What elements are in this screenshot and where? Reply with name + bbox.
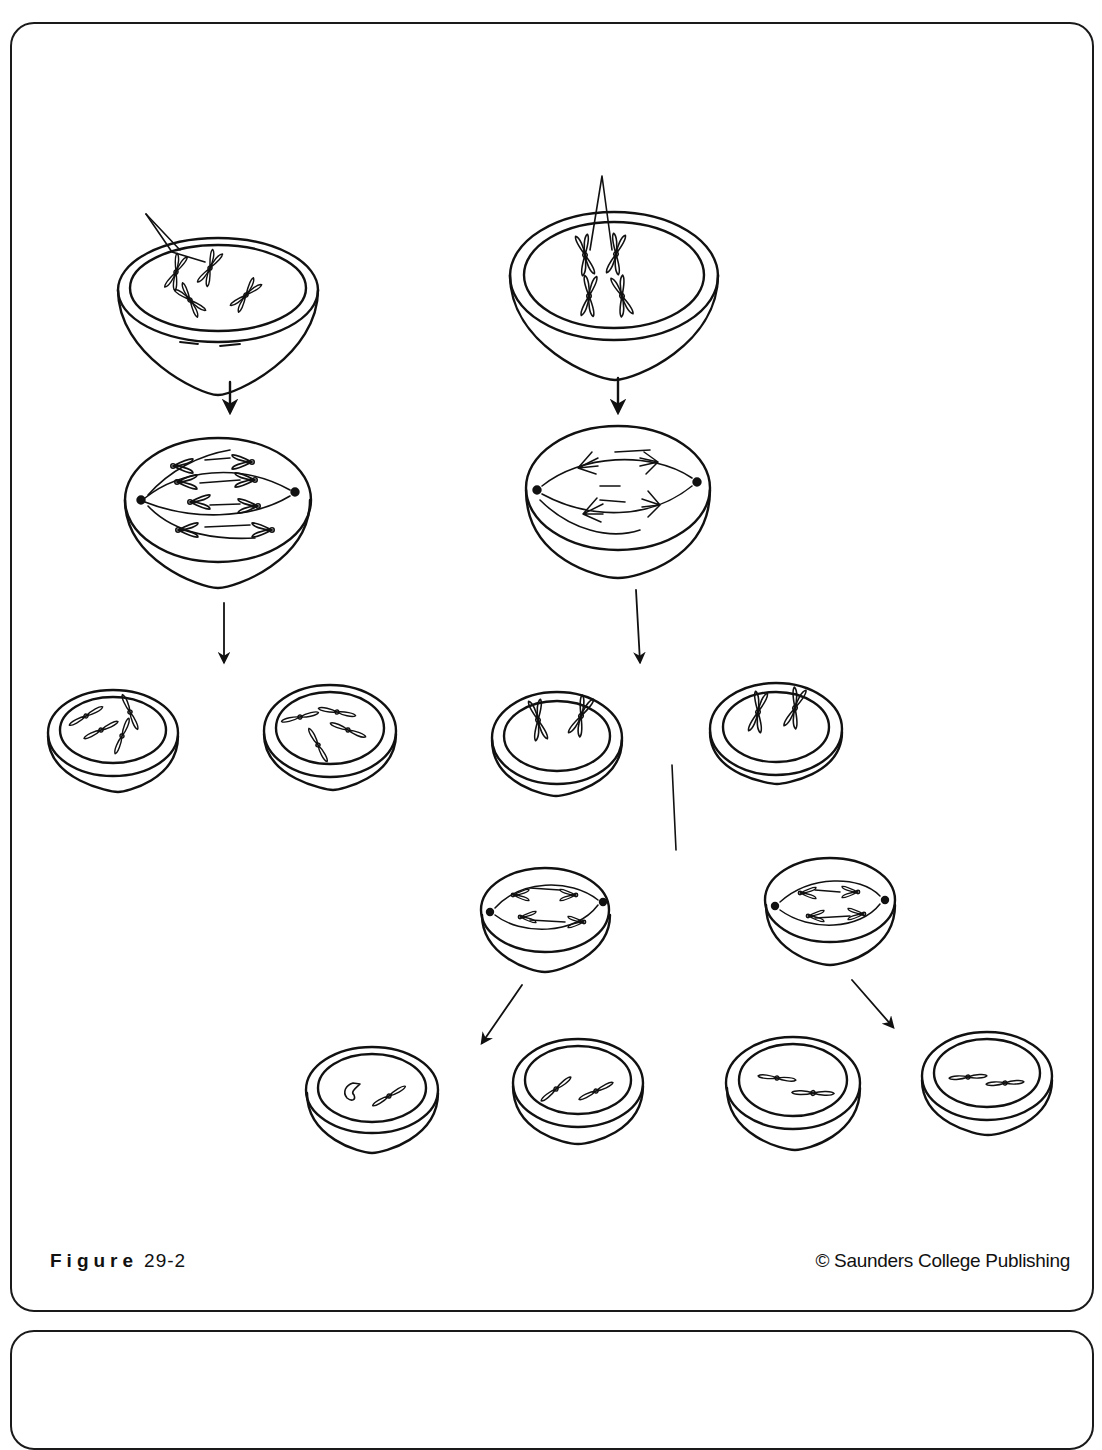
arrow-down-right bbox=[852, 980, 893, 1027]
left-metaphase-cell bbox=[125, 438, 311, 588]
final-cell-3 bbox=[726, 1037, 860, 1150]
right-metaphase-II-cell-2 bbox=[765, 858, 895, 965]
arrow-down bbox=[636, 590, 640, 662]
final-cell-1 bbox=[306, 1047, 438, 1153]
right-metaphase-II-cell-1 bbox=[481, 868, 610, 972]
right-cell-after-division-I-1 bbox=[492, 692, 622, 796]
connector-line bbox=[672, 765, 676, 850]
figure-number: 29-2 bbox=[144, 1250, 186, 1271]
left-daughter-cell-2 bbox=[264, 685, 396, 790]
arrow-down-left bbox=[482, 985, 522, 1043]
right-metaphase-I-cell bbox=[526, 426, 710, 578]
final-cell-2 bbox=[513, 1039, 643, 1144]
right-parent-cell bbox=[510, 176, 718, 380]
figure-label: Figure29-2 bbox=[50, 1250, 186, 1272]
final-cell-4 bbox=[922, 1032, 1052, 1135]
left-parent-cell bbox=[118, 214, 318, 395]
copyright-notice: © Saunders College Publishing bbox=[815, 1250, 1070, 1272]
right-cell-after-division-I-2 bbox=[710, 683, 842, 784]
figure-label-word: Figure bbox=[50, 1250, 138, 1271]
left-daughter-cell-1 bbox=[48, 690, 178, 792]
